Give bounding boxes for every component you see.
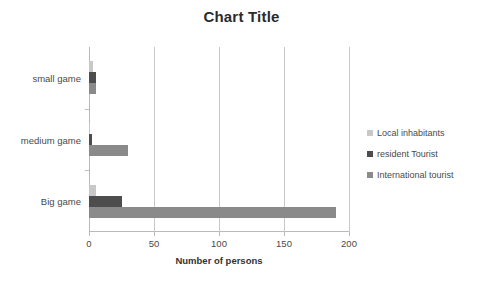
x-tick-label: 100 [211, 238, 227, 249]
gridline [349, 47, 350, 232]
y-tick-mark [85, 109, 89, 110]
legend-item[interactable]: International tourist [367, 170, 479, 180]
plot-area: small gamemedium gameBig game [89, 47, 349, 232]
x-tick-label: 150 [276, 238, 292, 249]
category-label: Big game [41, 196, 81, 207]
bar [89, 185, 96, 196]
bar [89, 61, 93, 72]
bar [89, 123, 90, 134]
legend-label: Local inhabitants [377, 128, 445, 138]
x-tick-mark [219, 232, 220, 236]
chart-container: Chart Title small gamemedium gameBig gam… [0, 0, 483, 283]
bar [89, 207, 336, 218]
legend-label: resident Tourist [377, 149, 438, 159]
y-tick-mark [85, 170, 89, 171]
bar [89, 83, 96, 94]
gridline [154, 47, 155, 232]
chart-legend: Local inhabitantsresident TouristInterna… [367, 128, 479, 191]
bar [89, 196, 122, 207]
legend-swatch-icon [367, 151, 373, 157]
gridline [219, 47, 220, 232]
gridline [284, 47, 285, 232]
x-tick-mark [284, 232, 285, 236]
legend-item[interactable]: Local inhabitants [367, 128, 479, 138]
x-tick-mark [154, 232, 155, 236]
bar [89, 72, 96, 83]
x-tick-mark [349, 232, 350, 236]
x-axis-title: Number of persons [89, 255, 349, 266]
x-tick-label: 0 [86, 238, 91, 249]
x-tick-mark [89, 232, 90, 236]
chart-title: Chart Title [0, 8, 483, 25]
x-tick-label: 50 [149, 238, 160, 249]
x-tick-label: 200 [341, 238, 357, 249]
legend-swatch-icon [367, 130, 373, 136]
bar [89, 145, 128, 156]
legend-item[interactable]: resident Tourist [367, 149, 479, 159]
category-label: medium game [21, 134, 81, 145]
category-label: small game [32, 72, 81, 83]
legend-label: International tourist [377, 170, 454, 180]
legend-swatch-icon [367, 172, 373, 178]
bar [89, 134, 92, 145]
